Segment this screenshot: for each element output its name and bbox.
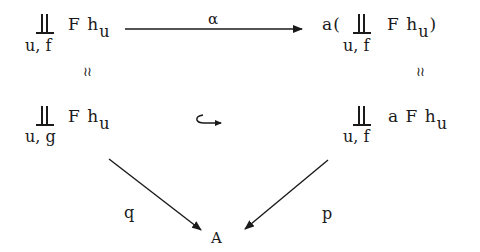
node-prefix: a( [322,16,341,33]
coproduct-index: u, f [343,129,369,145]
node-bottom-A: A [211,229,222,247]
node-expression: F hu [68,108,110,125]
coproduct-index: u, f [343,38,369,54]
q-arrow [109,159,201,230]
p-arrow [245,160,328,229]
coproduct-index: u, f [25,38,51,54]
right-isomorphism-icon: ≀≀ [416,64,424,79]
p-label: p [322,204,332,223]
inclusion-hook-arrow [197,115,221,123]
node-expression: F hu [68,16,110,33]
q-label: q [124,203,134,222]
left-isomorphism-icon: ≀≀ [83,64,91,79]
alpha-label: α [208,10,218,28]
node-expression: F hu) [387,16,437,33]
arrows-layer [0,0,480,252]
node-expression: a F hu [388,108,448,125]
coproduct-index: u, g [25,129,56,145]
